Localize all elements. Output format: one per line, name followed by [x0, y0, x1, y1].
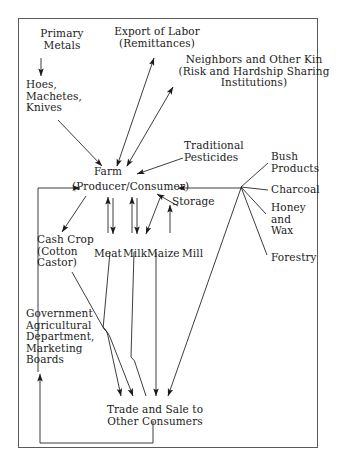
node-charcoal: Charcoal	[271, 184, 331, 196]
edge-hub-honey-wax	[241, 187, 266, 214]
edge-farm-to-cash-crop	[62, 196, 86, 232]
node-storage: Storage	[172, 196, 224, 208]
edge-hoes-to-farm	[58, 120, 102, 166]
edge-farm-neighbors	[127, 87, 173, 166]
node-honey-and-wax: Honey and Wax	[271, 202, 323, 237]
node-hoes-machetes-knives: Hoes, Machetes, Knives	[26, 79, 106, 114]
node-export-of-labor: Export of Labor (Remittances)	[102, 26, 212, 49]
node-government-marketing-boards: Government Agricultural Department, Mark…	[26, 308, 110, 366]
edge-pesticides-to-farm	[137, 158, 183, 174]
diagram-page: Primary Metals Hoes, Machetes, Knives Ex…	[0, 0, 339, 468]
node-farm-producer-consumer: (Producer/Consumer)	[72, 181, 182, 193]
edge-hub-to-trade	[168, 188, 241, 396]
node-neighbors-and-other-kin: Neighbors and Other Kin (Risk and Hardsh…	[176, 54, 332, 89]
node-trade-and-sale: Trade and Sale to Other Consumers	[95, 404, 215, 427]
node-farm: Farm	[85, 166, 131, 178]
edge-hub-bush-products	[241, 163, 268, 187]
node-mill: Mill	[182, 248, 210, 260]
node-traditional-pesticides: Traditional Pesticides	[184, 140, 258, 163]
node-forestry: Forestry	[271, 252, 331, 264]
edge-hub-forestry	[241, 187, 267, 255]
node-bush-products: Bush Products	[271, 151, 331, 174]
edge-farm-to-maize	[146, 198, 160, 234]
edge-farm-export-labor	[117, 58, 154, 166]
edge-hub-charcoal	[241, 187, 268, 190]
edge-milk-to-trade	[131, 252, 146, 396]
node-primary-metals: Primary Metals	[26, 28, 98, 51]
node-maize: Maize	[147, 248, 185, 260]
